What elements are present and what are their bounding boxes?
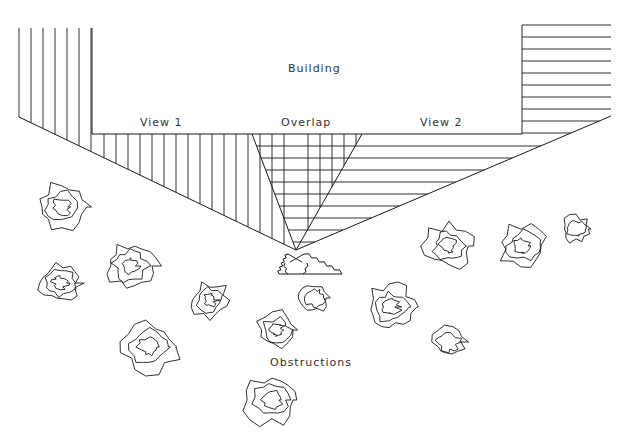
obstruction-shrub-icon (120, 320, 180, 376)
obstruction-shrub-icon (38, 262, 85, 300)
view2-building-wall-hatch (522, 25, 611, 134)
building-label: Building (288, 62, 341, 75)
camera-coverage-diagram: Building View 1 Overlap View 2 Obstructi… (0, 0, 624, 439)
view2-label: View 2 (420, 116, 463, 129)
obstruction-shrub-icon (40, 182, 92, 230)
view1-building-wall-hatch (19, 28, 91, 152)
obstruction-shrub-icon (243, 378, 297, 427)
obstruction-shrub-icon (432, 325, 469, 354)
view2-field-hatch (257, 146, 541, 242)
obstructions-label: Obstructions (270, 356, 352, 369)
obstruction-shrub-icon (257, 310, 298, 349)
obstruction-shrub-icon (500, 224, 546, 268)
view1-field-hatch (104, 134, 356, 244)
obstruction-shrub-icon (191, 282, 230, 321)
obstruction-shrub-icon (371, 282, 419, 328)
obstruction-shrub-icon (298, 286, 330, 311)
obstruction-shrub-icon (107, 244, 161, 288)
obstruction-shrub-icon (564, 214, 591, 243)
camera-icon (278, 254, 342, 274)
obstruction-shrub-icon (421, 221, 475, 269)
view1-label: View 1 (140, 116, 183, 129)
overlap-label: Overlap (281, 116, 331, 129)
obstructions-group (38, 182, 591, 426)
